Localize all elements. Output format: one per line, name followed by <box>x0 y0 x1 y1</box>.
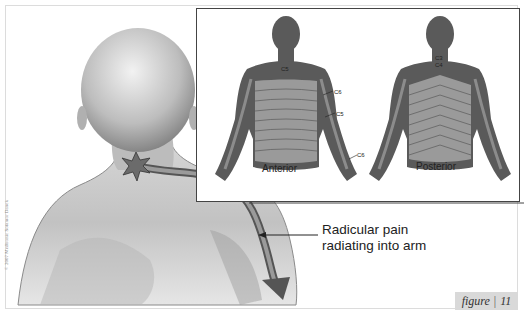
figure-separator: | <box>494 294 496 309</box>
label-c3-posterior: C3 <box>435 55 443 61</box>
figure-word: figure <box>462 294 490 309</box>
dermatome-figures <box>197 9 518 200</box>
anterior-label: Anterior <box>262 163 297 174</box>
label-c6-hand: C6 <box>357 152 365 158</box>
posterior-figure <box>369 16 511 181</box>
callout-line-1: Radicular pain <box>322 222 426 238</box>
radicular-pain-callout: Radicular pain radiating into arm <box>322 222 426 254</box>
label-c5-anterior-neck: C5 <box>281 66 289 72</box>
label-c5-anterior-forearm: C5 <box>336 111 344 117</box>
label-c4-posterior: C4 <box>435 62 443 68</box>
callout-line-2: radiating into arm <box>322 238 426 254</box>
anterior-figure <box>215 16 357 181</box>
dermatome-inset: C5 C6 C5 C6 C3 C4 Anterior Posterior <box>196 8 520 202</box>
label-c6-anterior-arm: C6 <box>334 89 342 95</box>
head <box>81 28 195 152</box>
figure-number: 11 <box>500 294 511 309</box>
figure-tag: figure | 11 <box>455 292 518 310</box>
copyright-text: © 2007 Medtronic Sofamor Danek <box>4 200 9 270</box>
posterior-label: Posterior <box>416 161 456 172</box>
